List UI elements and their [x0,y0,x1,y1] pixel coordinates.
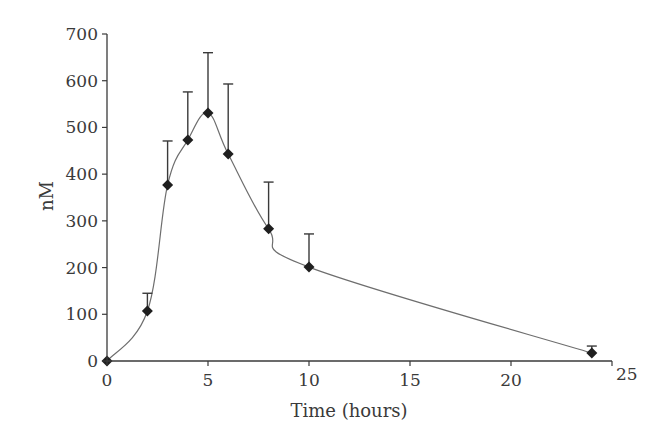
x-tick-label: 0 [102,370,113,390]
x-tick-label: 15 [399,370,421,390]
y-tick-label: 600 [66,71,98,91]
series-curve [107,113,592,361]
y-axis-title: nM [36,181,57,211]
x-tick-label: 10 [298,370,320,390]
axes [107,34,612,361]
x-axis-ticks: 0510152025 [102,361,638,390]
x-tick-label: 5 [203,370,214,390]
chart-canvas: 0100200300400500600700 0510152025 Time (… [0,0,656,443]
pk-concentration-chart: 0100200300400500600700 0510152025 Time (… [0,0,656,443]
plot-area [102,53,598,367]
data-point-diamond-icon [223,149,234,160]
data-point-diamond-icon [142,306,153,317]
x-tick-label: 25 [616,364,638,384]
y-tick-label: 300 [66,211,98,231]
y-tick-label: 400 [66,164,98,184]
x-axis-title: Time (hours) [290,400,407,421]
data-point-diamond-icon [304,262,315,273]
data-point-diamond-icon [263,223,274,234]
data-point-diamond-icon [586,348,597,359]
y-tick-label: 700 [66,24,98,44]
data-point-diamond-icon [182,135,193,146]
y-tick-label: 100 [66,304,98,324]
x-tick-label: 20 [500,370,522,390]
y-tick-label: 200 [66,258,98,278]
y-tick-label: 0 [87,351,98,371]
data-point-diamond-icon [162,179,173,190]
y-tick-label: 500 [66,117,98,137]
y-axis-ticks: 0100200300400500600700 [66,24,107,371]
